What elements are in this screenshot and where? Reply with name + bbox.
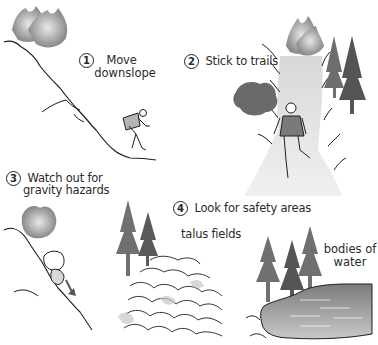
panel-2-stick-to-trails xyxy=(233,16,366,196)
tree-icon xyxy=(324,36,366,114)
talus-rocks xyxy=(124,256,222,336)
panel-1-move-downslope xyxy=(4,6,156,160)
step-2-number: 2 xyxy=(184,54,199,69)
step-4-number: 4 xyxy=(173,201,188,216)
step-4-label: 4 Look for safety areas xyxy=(173,201,311,216)
step-1-text-line1: Move xyxy=(106,53,136,67)
step-3-number: 3 xyxy=(6,171,21,186)
step-3-text-line2: gravity hazards xyxy=(23,184,109,197)
arrow-down-icon xyxy=(66,280,76,296)
fire-smoke-icon xyxy=(22,206,57,238)
bush-icon xyxy=(233,82,277,115)
bodies-of-water-label-line2: water xyxy=(322,256,378,269)
water-icon xyxy=(261,284,372,339)
panel-4-talus-fields xyxy=(116,200,222,336)
step-1-number: 1 xyxy=(79,53,94,68)
talus-fields-label: talus fields xyxy=(181,228,241,241)
panel-3-gravity-hazards xyxy=(4,206,92,330)
step-1-text-line2: downslope xyxy=(90,67,160,80)
fire-smoke-icon xyxy=(12,6,67,47)
boulder-icon xyxy=(44,251,64,284)
tree-icon xyxy=(116,200,158,276)
step-2-text: Stick to trails xyxy=(205,54,278,68)
fire-smoke-icon xyxy=(286,16,324,56)
step-4-text: Look for safety areas xyxy=(194,201,311,215)
step-2-label: 2 Stick to trails xyxy=(184,54,278,69)
hiker-figure xyxy=(123,110,150,151)
